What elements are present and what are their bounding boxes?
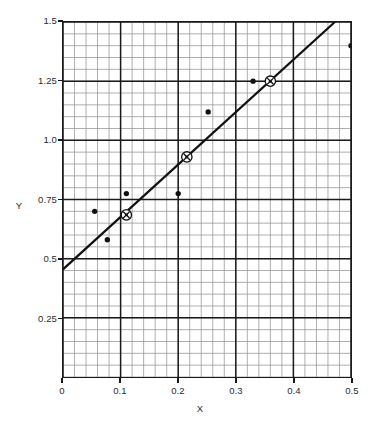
x-tick-label: 0.3 — [220, 386, 252, 396]
x-tick-mark — [293, 378, 295, 383]
y-tick-mark — [58, 318, 63, 320]
y-tick-label: 1.0 — [24, 135, 57, 145]
x-tick-mark — [351, 378, 353, 383]
plot-area — [62, 21, 352, 378]
x-tick-label: 0 — [46, 386, 78, 396]
x-tick-mark — [235, 378, 237, 383]
x-tick-label: 0.5 — [336, 386, 368, 396]
x-tick-mark — [177, 378, 179, 383]
x-tick-label: 0.2 — [162, 386, 194, 396]
x-axis-label: X — [190, 404, 210, 414]
y-tick-label: 1.5 — [24, 16, 57, 26]
y-axis-label: Y — [10, 201, 28, 211]
y-tick-mark — [58, 199, 63, 201]
x-tick-mark — [61, 378, 63, 383]
y-tick-mark — [58, 80, 63, 82]
y-tick-label: 0.75 — [24, 195, 57, 205]
y-tick-label: 0.25 — [24, 314, 57, 324]
y-tick-mark — [58, 258, 63, 260]
x-tick-label: 0.1 — [104, 386, 136, 396]
x-tick-mark — [119, 378, 121, 383]
y-tick-label: 0.5 — [24, 254, 57, 264]
x-tick-label: 0.4 — [278, 386, 310, 396]
data-layer — [63, 22, 351, 377]
y-tick-mark — [58, 139, 63, 141]
y-tick-label: 1.25 — [24, 76, 57, 86]
y-tick-mark — [58, 20, 63, 22]
scatter-plot-figure: 0.250.50.751.01.251.5 00.10.20.30.40.5 Y… — [0, 0, 377, 433]
